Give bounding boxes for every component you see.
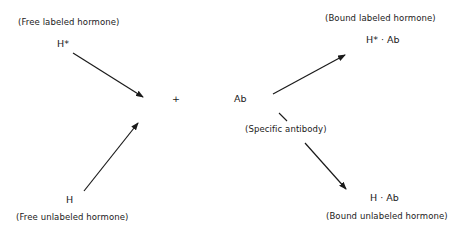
free-unlabeled-hormone-symbol: H — [66, 194, 73, 205]
arrow-ab-to-bound-labeled — [273, 55, 345, 94]
arrow-ab-to-bound-unlabeled — [305, 143, 346, 189]
antibody-symbol: Ab — [234, 93, 247, 104]
bound-unlabeled-hormone-caption: (Bound unlabeled hormone) — [326, 211, 448, 221]
plus-operator: + — [172, 93, 180, 104]
specific-antibody-caption: (Specific antibody) — [245, 124, 327, 134]
bound-labeled-hormone-caption: (Bound labeled hormone) — [325, 13, 436, 23]
bound-labeled-hormone-symbol: H* · Ab — [366, 34, 399, 45]
ab-leader-line — [279, 113, 287, 121]
arrow-h-to-plus — [84, 123, 138, 191]
free-unlabeled-hormone-caption: (Free unlabeled hormone) — [16, 212, 128, 222]
arrow-hstar-to-plus — [73, 53, 143, 97]
free-labeled-hormone-symbol: H* — [57, 38, 69, 49]
bound-unlabeled-hormone-symbol: H · Ab — [370, 192, 399, 203]
free-labeled-hormone-caption: (Free labeled hormone) — [18, 17, 120, 27]
